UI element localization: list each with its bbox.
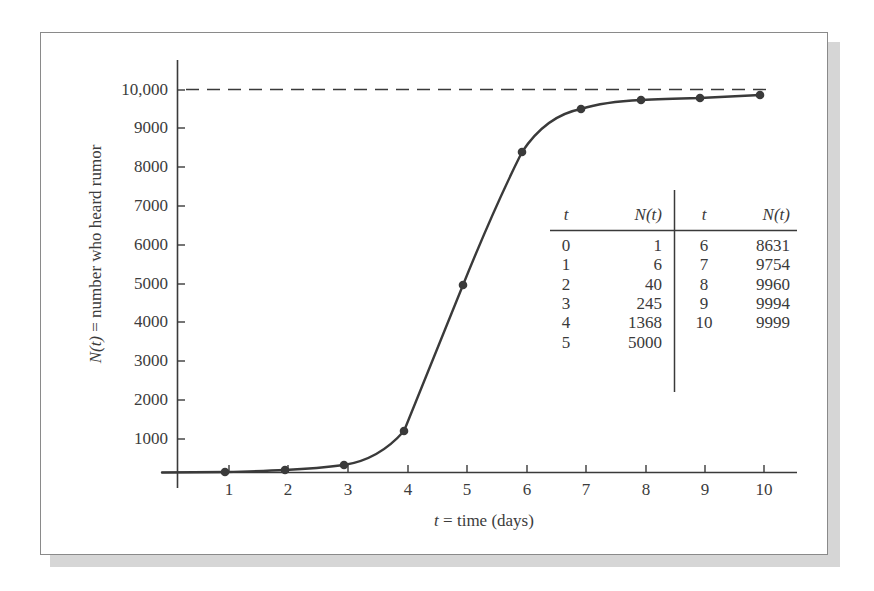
table-cell-n: 1368 (628, 313, 662, 332)
table-cell-n: 9999 (756, 313, 790, 332)
data-point (221, 468, 230, 477)
x-tick-label: 7 (582, 480, 591, 500)
table-cell-t: 10 (696, 313, 713, 332)
x-tick-label: 8 (642, 480, 651, 500)
data-point (756, 91, 765, 100)
y-tick-label: 4000 (134, 312, 168, 332)
data-point (696, 94, 705, 103)
y-axis-title: N(t) = number who heard rumor (86, 145, 106, 364)
table-header-n: N(t) (635, 205, 662, 224)
data-point (518, 148, 527, 157)
table-cell-n: 245 (637, 294, 663, 313)
table-cell-t: 8 (700, 275, 709, 294)
y-tick-label: 7000 (134, 196, 168, 216)
table-cell-t: 4 (562, 313, 571, 332)
table-cell-t: 7 (700, 255, 709, 274)
table-cell-t: 6 (700, 236, 709, 255)
y-axis-title-var: N(t) (86, 336, 105, 363)
data-point (577, 105, 586, 114)
table-cell-n: 5000 (628, 333, 662, 352)
table-cell-t: 5 (562, 333, 571, 352)
table-header-n: N(t) (763, 205, 790, 224)
table-cell-n: 9754 (756, 255, 790, 274)
x-tick-label: 10 (756, 480, 773, 500)
y-tick-label: 10,000 (121, 80, 168, 100)
table-cell-n: 40 (645, 275, 662, 294)
x-axis-title-text: = time (days) (439, 511, 534, 530)
data-points (221, 91, 765, 477)
table-cell-t: 0 (562, 236, 571, 255)
data-point (400, 427, 409, 436)
x-axis-title: t = time (days) (434, 511, 534, 531)
table-header-t: t (564, 205, 569, 224)
data-point (340, 461, 349, 470)
table-cell-n: 9960 (756, 275, 790, 294)
y-tick-label: 1000 (134, 429, 168, 449)
x-tick-label: 9 (701, 480, 710, 500)
table-cell-n: 6 (654, 255, 663, 274)
y-tick-label: 3000 (134, 351, 168, 371)
table-header-t: t (702, 205, 707, 224)
table-cell-t: 1 (562, 255, 571, 274)
table-cell-n: 8631 (756, 236, 790, 255)
data-point (459, 281, 468, 290)
x-tick-label: 3 (344, 480, 353, 500)
y-tick-label: 5000 (134, 274, 168, 294)
x-tick-label: 4 (404, 480, 413, 500)
y-tick-label: 9000 (134, 118, 168, 138)
table-cell-t: 9 (700, 294, 709, 313)
y-tick-label: 6000 (134, 235, 168, 255)
data-point (637, 96, 646, 105)
y-axis-title-text: = number who heard rumor (86, 145, 105, 336)
y-tick-label: 8000 (134, 157, 168, 177)
x-tick-label: 1 (225, 480, 234, 500)
table-cell-t: 2 (562, 275, 571, 294)
y-tick-label: 2000 (134, 390, 168, 410)
x-tick-label: 2 (284, 480, 293, 500)
x-tick-label: 5 (463, 480, 472, 500)
data-point (281, 466, 290, 475)
x-tick-label: 6 (523, 480, 532, 500)
table-cell-n: 9994 (756, 294, 790, 313)
table-cell-n: 1 (654, 236, 663, 255)
table-cell-t: 3 (562, 294, 571, 313)
